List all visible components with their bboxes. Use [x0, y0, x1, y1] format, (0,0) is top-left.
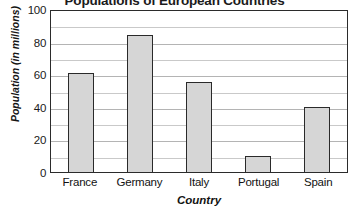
bar-slot	[51, 11, 110, 172]
y-axis-tick: 40	[18, 102, 46, 114]
y-axis-tick: 0	[18, 167, 46, 179]
bar-france	[68, 73, 94, 172]
x-axis-tick: Italy	[169, 176, 229, 188]
y-axis-tick: 80	[18, 37, 46, 49]
bar-portugal	[245, 156, 271, 172]
x-axis-tick: Spain	[288, 176, 348, 188]
bar-spain	[304, 107, 330, 172]
chart-title: Populations of European Countries	[0, 0, 349, 8]
x-axis-label: Country	[50, 194, 348, 206]
y-axis-tick: 20	[18, 134, 46, 146]
x-axis-tick: Germany	[110, 176, 170, 188]
bar-germany	[127, 35, 153, 172]
x-axis-tick: France	[50, 176, 110, 188]
plot-area	[50, 10, 348, 173]
bar-slot	[110, 11, 169, 172]
bar-slot	[288, 11, 347, 172]
y-axis-tick: 100	[18, 4, 46, 16]
x-axis-tick: Portugal	[229, 176, 289, 188]
bar-slot	[169, 11, 228, 172]
bar-chart: Populations of European Countries Popula…	[0, 0, 349, 215]
bars-container	[51, 11, 347, 172]
y-axis-tick-labels: 020406080100	[18, 10, 46, 173]
bar-slot	[229, 11, 288, 172]
y-axis-tick: 60	[18, 69, 46, 81]
x-axis-tick-labels: FranceGermanyItalyPortugalSpain	[50, 176, 348, 188]
bar-italy	[186, 82, 212, 172]
